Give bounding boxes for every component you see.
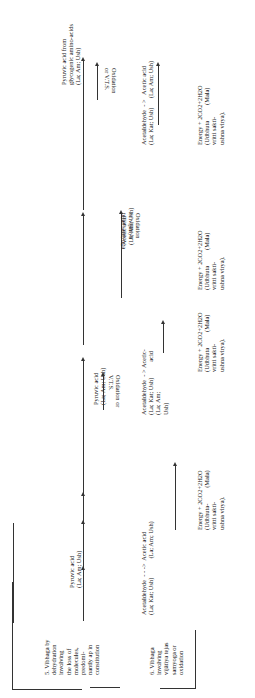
col1-top-line [13, 523, 14, 623]
col2-oxidation-arrow [103, 375, 104, 410]
bracket-5-foot [12, 689, 82, 690]
col1-input-arrow-b [83, 569, 84, 621]
col1-energy: Energy + 2CO2+2H2O (Udbhuta- (Mala) vrit… [196, 470, 225, 530]
col1-energy-arrow [175, 465, 176, 530]
col4-oxidation-arrow [97, 65, 98, 100]
col2-energy: Energy + 2CO2+2H2O (Udbhuta (Mala) vritt… [196, 312, 225, 372]
bracket-6-bottom [160, 688, 196, 689]
col1-mid: Acetaldehyde - - -> Acetic acid (La; Kat… [140, 521, 154, 615]
col2-arrow-label: Oxidation or V.T.S. [108, 375, 122, 407]
row-6-label: 6. Vibhaga involving vijātiya tejas samy… [148, 643, 184, 675]
col4-input-arrow [83, 60, 84, 210]
col3-input-arrow [83, 215, 84, 345]
diagram: 5. Vibhaga by dehydration involving the … [0, 0, 255, 698]
col4-energy-arrow [158, 65, 159, 125]
bracket-6-foot [90, 687, 120, 688]
row-5-label: 5. Vibhaga by dehydration involving the … [43, 639, 101, 675]
col4-arrow-label: Oxidation or V.T.S. [104, 68, 118, 94]
col4-pyruvic: Pyruvic acid from glycogenic amino-acids… [60, 24, 82, 85]
col2-mid: Acetaldehyde - > Acetic- (La; Kat; Ush) … [140, 349, 169, 415]
col1-pyruvic-a: Pyruvic acid (La; Am; Ush) [68, 551, 82, 588]
col2-energy-arrow [163, 323, 164, 353]
col4-mid: Acetaldehyde - > Acetic acid (La; Kat; U… [140, 61, 154, 145]
col2-input-arrow [83, 360, 84, 510]
bracket-6-side [195, 630, 196, 688]
col3-arrow-label: Oxidation or vijātiya tejas samyoga [120, 213, 142, 249]
col3-energy: Energy + 2CO2+2H2O (Udbhuta (Mala) vritt… [196, 230, 225, 290]
col4-energy: Energy + 2CO2+2H2O (Udbhuta (Mala) vritt… [196, 85, 225, 145]
